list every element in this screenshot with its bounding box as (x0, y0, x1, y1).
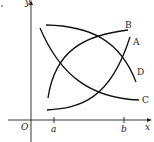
curve-d-label: D (137, 67, 144, 77)
curve-b (48, 30, 128, 98)
curve-d (46, 25, 136, 82)
x-axis-label: x (145, 122, 150, 132)
origin-label: O (21, 122, 29, 132)
y-axis-label: y (24, 0, 31, 7)
curve-b-label: B (125, 20, 132, 30)
curve-c-label: C (142, 95, 149, 105)
tick-b-label: b (121, 124, 127, 134)
tick-a-label: a (51, 124, 56, 134)
stray-mark (1, 5, 3, 7)
curve-a (47, 37, 130, 110)
graph-canvas: y x O a b A B C D (0, 0, 154, 142)
curve-a-label: A (132, 37, 140, 47)
